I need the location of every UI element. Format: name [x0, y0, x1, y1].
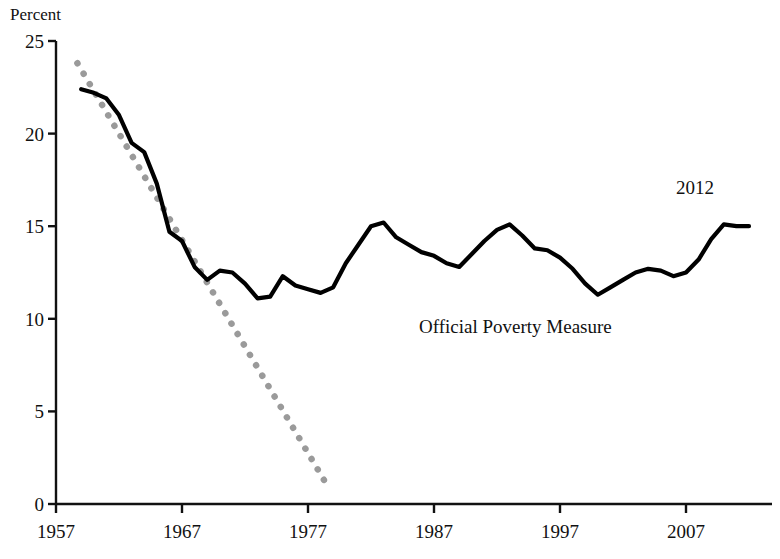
x-axis-ticks — [56, 504, 686, 513]
x-tick-label-2007: 2007 — [646, 522, 726, 541]
series-annotation-official-poverty-measure: Official Poverty Measure — [419, 317, 612, 336]
y-tick-label-20: 20 — [4, 125, 44, 144]
y-tick-label-25: 25 — [4, 32, 44, 51]
x-tick-label-1987: 1987 — [394, 522, 474, 541]
x-tick-label-1967: 1967 — [142, 522, 222, 541]
y-tick-label-15: 15 — [4, 217, 44, 236]
year-annotation-2012: 2012 — [676, 178, 714, 197]
x-tick-label-1977: 1977 — [268, 522, 348, 541]
x-tick-label-1957: 1957 — [16, 522, 96, 541]
y-tick-label-10: 10 — [4, 310, 44, 329]
chart-plot-area — [0, 0, 780, 559]
y-tick-label-5: 5 — [4, 402, 44, 421]
data-series-group — [77, 63, 749, 489]
poverty-rate-chart: Percent 0510152025 195719671977198719972… — [0, 0, 780, 559]
x-tick-label-1997: 1997 — [520, 522, 600, 541]
axes — [48, 41, 772, 513]
y-tick-label-0: 0 — [4, 495, 44, 514]
official-poverty-line — [81, 89, 749, 298]
